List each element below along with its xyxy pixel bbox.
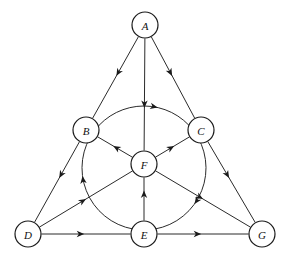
edge-c-to-g [208,142,255,223]
edge-b-to-d [35,142,80,222]
node-d[interactable]: D [15,221,41,247]
node-label-e: E [140,229,148,241]
node-label-g: G [258,229,266,241]
node-label-a: A [141,20,149,32]
edge-f-to-c-arrowhead [166,146,174,153]
node-e[interactable]: E [131,221,157,247]
node-label-f: F [140,159,148,171]
edge-b-to-d-arrowhead [59,170,65,178]
edge-a-to-b [93,37,139,118]
edge-d-to-f-arrowhead [78,199,86,206]
edge-a-to-b-arrowhead [116,68,122,76]
straight-edges-group [35,37,256,234]
node-label-c: C [197,125,205,137]
node-label-d: D [23,229,32,241]
node-f[interactable]: F [131,151,157,177]
node-a[interactable]: A [132,12,158,38]
node-b[interactable]: B [73,117,99,143]
graph-canvas: ABCFDEG [0,0,287,257]
edge-f-to-b-arrowhead [113,146,121,153]
edge-c-to-g-arrowhead [223,170,230,178]
edge-a-to-f [144,38,145,150]
arc-edge-e-to-b [82,131,133,229]
edge-a-to-c [151,37,194,118]
edge-f-to-g-arrowhead [195,192,203,199]
node-c[interactable]: C [188,117,214,143]
directed-graph-figure: ABCFDEG [0,0,287,257]
node-label-b: B [83,125,90,137]
arc-edge-c-to-e [155,131,206,229]
node-g[interactable]: G [249,221,275,247]
